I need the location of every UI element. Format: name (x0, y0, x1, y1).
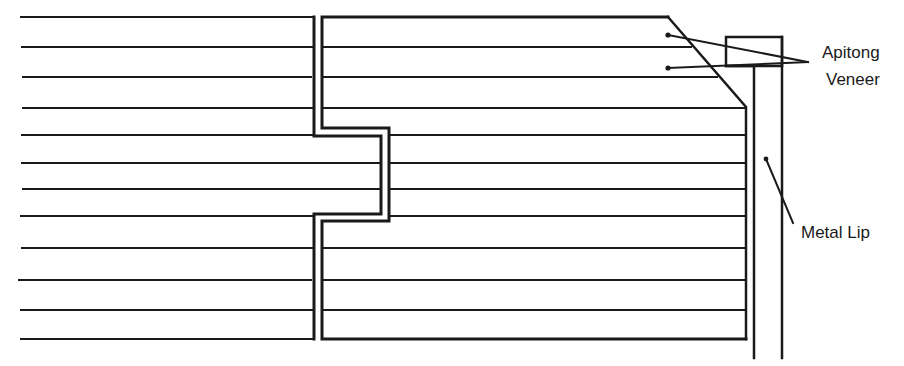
right-panel-outline (322, 17, 746, 339)
left-panel (19, 17, 381, 339)
veneer-leader-line-upper (668, 35, 808, 62)
label-veneer: Veneer (826, 70, 880, 89)
left-panel-tongue-edge (314, 17, 381, 339)
label-apitong: Apitong (822, 43, 880, 62)
metal-lip-leader (764, 157, 793, 223)
plywood-joint-diagram: Apitong Veneer Metal Lip (0, 0, 904, 366)
leader-dot-icon (665, 65, 670, 70)
leader-dot-icon (665, 32, 670, 37)
right-ply-lines (322, 47, 746, 310)
leader-dot-icon (764, 157, 769, 162)
left-ply-lines (19, 17, 381, 339)
metal-lip-leader-line (766, 159, 793, 223)
label-metal-lip: Metal Lip (801, 223, 870, 242)
right-panel (322, 17, 746, 339)
metal-lip (754, 37, 782, 358)
